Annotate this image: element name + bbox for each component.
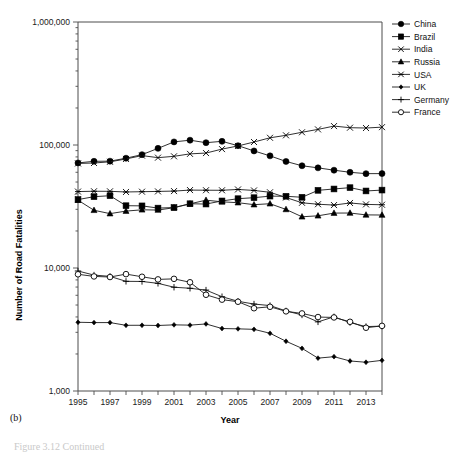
x-tick-label: 2009 xyxy=(293,397,312,407)
legend-label: USA xyxy=(414,70,432,80)
x-tick-label: 2005 xyxy=(229,397,248,407)
x-tick-label: 1997 xyxy=(101,397,120,407)
series-markers xyxy=(75,197,385,219)
x-tick-label: 2003 xyxy=(197,397,216,407)
chart-legend: ChinaBrazilIndiaRussiaUSAUKGermanyFrance xyxy=(392,19,450,117)
y-tick-label: 1,000,000 xyxy=(32,17,70,27)
x-tick-label: 2013 xyxy=(357,397,376,407)
y-tick-label: 10,000 xyxy=(44,263,70,273)
y-axis-ticks: 1,00010,000100,0001,000,000 xyxy=(32,17,78,396)
series-uk xyxy=(76,320,384,365)
legend-label: Russia xyxy=(414,57,440,67)
series-brazil xyxy=(75,185,385,211)
legend-item-russia[interactable]: Russia xyxy=(392,57,440,67)
legend-label: Germany xyxy=(414,95,450,105)
figure-container: 1,00010,000100,0001,000,000 199519971999… xyxy=(0,0,465,453)
legend-item-india[interactable]: India xyxy=(392,44,433,54)
y-axis-title: Number of Road Fatalities xyxy=(14,209,24,321)
panel-label: (b) xyxy=(10,412,22,424)
series-russia xyxy=(75,197,385,219)
series-layer xyxy=(75,123,385,365)
legend-label: India xyxy=(414,44,433,54)
legend-item-usa[interactable]: USA xyxy=(392,70,432,80)
x-tick-label: 2007 xyxy=(261,397,280,407)
legend-item-china[interactable]: China xyxy=(392,19,436,29)
x-tick-label: 2011 xyxy=(325,397,344,407)
x-tick-label: 1999 xyxy=(133,397,152,407)
x-axis-title: Year xyxy=(220,415,240,425)
legend-label: France xyxy=(414,107,441,117)
series-usa xyxy=(75,186,385,208)
legend-item-brazil[interactable]: Brazil xyxy=(392,32,435,42)
legend-item-germany[interactable]: Germany xyxy=(392,95,450,105)
legend-label: UK xyxy=(414,82,426,92)
figure-caption: Figure 3.12 Continued xyxy=(14,441,104,452)
x-tick-label: 1995 xyxy=(69,397,88,407)
x-tick-label: 2001 xyxy=(165,397,184,407)
y-tick-label: 100,000 xyxy=(39,140,70,150)
y-tick-label: 1,000 xyxy=(49,386,71,396)
x-axis-ticks: 1995199719992001200320052007200920112013 xyxy=(69,391,382,407)
legend-label: China xyxy=(414,19,436,29)
road-fatalities-line-chart: 1,00010,000100,0001,000,000 199519971999… xyxy=(0,0,465,453)
series-china xyxy=(75,137,385,176)
series-germany xyxy=(75,268,385,330)
legend-item-france[interactable]: France xyxy=(392,107,441,117)
legend-item-uk[interactable]: UK xyxy=(392,82,426,92)
series-india xyxy=(75,123,385,166)
legend-label: Brazil xyxy=(414,32,435,42)
